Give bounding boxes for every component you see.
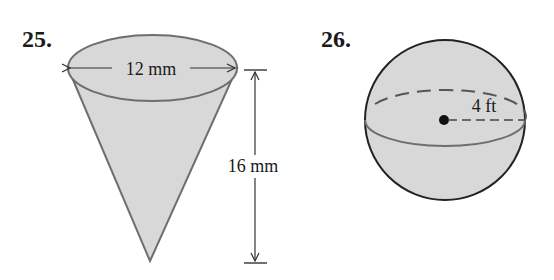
cone-diameter-label: 12 mm — [126, 59, 177, 79]
sphere-figure: 4 ft — [365, 40, 526, 200]
figures: 12 mm 16 mm 4 ft — [0, 0, 554, 280]
cone-height-label: 16 mm — [228, 156, 279, 176]
sphere-radius-label: 4 ft — [472, 96, 497, 116]
cone-figure: 12 mm 16 mm — [68, 35, 278, 263]
sphere-center-dot — [439, 115, 449, 125]
